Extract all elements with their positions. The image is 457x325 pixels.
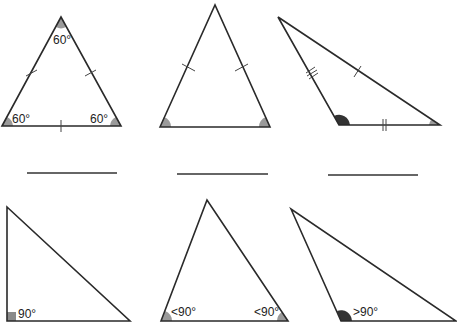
triangle-obtuse: >90° [291,209,456,321]
triangle-diagram: 60° 60° 60° 90° <90° <90° [0,0,457,325]
triangle-equilateral: 60° 60° 60° [2,17,121,132]
angle-label-left: 60° [12,112,30,126]
angle-label-right: 60° [90,112,108,126]
right-angle-mark [7,312,16,321]
angle-label-right: <90° [254,305,279,319]
triangle-scalene [278,17,440,131]
angle-label-right-angle: 90° [18,307,36,321]
triangle-acute: <90° <90° [161,200,288,321]
triangle-right: 90° [7,207,130,321]
angle-label-obtuse: >90° [353,305,378,319]
triangle-isosceles [160,5,270,127]
angle-label-left: <90° [171,305,196,319]
angle-label-top: 60° [53,33,71,47]
